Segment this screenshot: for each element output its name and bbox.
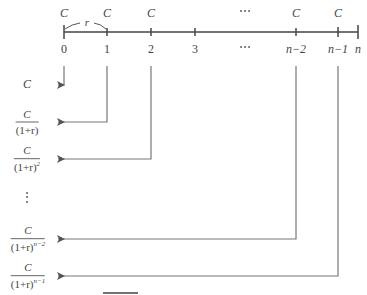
period-label-3: 3: [192, 42, 198, 57]
pv-term-n-1-denominator: (1+r)n−1: [11, 276, 45, 290]
pv-term-n-2-denominator: (1+r)n−2: [11, 239, 45, 253]
discount-arrow-1: [58, 66, 107, 122]
pv-term-n-1-numerator: C: [11, 262, 45, 275]
period-label-n-1: n−1: [328, 42, 348, 57]
pv-term-1-denominator: (1+r): [16, 123, 39, 136]
period-label-n: n: [355, 42, 361, 57]
cashflow-label-0: C: [60, 6, 68, 21]
rate-label: r: [85, 16, 89, 28]
period-label-2: 2: [148, 42, 154, 57]
cashflow-label-1: C: [103, 6, 111, 21]
cashflow-ellipsis: ⋯: [239, 4, 251, 19]
cash-flow-diagram: C C C ⋯ C C r 0 1 2 3 ⋯ n−2 n−1 n C C (1…: [0, 0, 367, 295]
pv-term-1-numerator: C: [16, 109, 39, 122]
cashflow-label-n-1: C: [334, 6, 342, 21]
period-label-1: 1: [104, 42, 110, 57]
period-label-0: 0: [61, 42, 67, 57]
period-ellipsis: ⋯: [239, 40, 251, 55]
pv-term-2-numerator: C: [14, 145, 40, 158]
pv-term-0: C: [23, 77, 31, 92]
pv-term-n-2: C (1+r)n−2: [11, 225, 45, 253]
cashflow-label-2: C: [147, 6, 155, 21]
pv-term-2: C (1+r)2: [14, 145, 40, 173]
discount-arrow-0: [58, 66, 64, 85]
pv-term-1: C (1+r): [16, 109, 39, 136]
pv-term-2-denominator: (1+r)2: [14, 159, 40, 173]
period-label-n-2: n−2: [286, 42, 306, 57]
discount-arrow-2: [58, 66, 151, 159]
cashflow-label-n-2: C: [292, 6, 300, 21]
pv-term-n-1: C (1+r)n−1: [11, 262, 45, 290]
pv-term-n-2-numerator: C: [11, 225, 45, 238]
pv-vertical-ellipsis: ⋮: [21, 190, 33, 205]
discount-arrow-n-2: [58, 66, 296, 239]
diagram-lines: [0, 0, 367, 295]
